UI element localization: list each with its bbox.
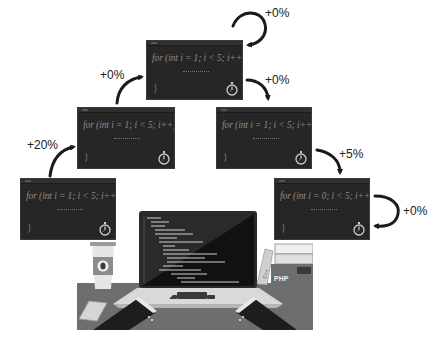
loop-body-placeholder bbox=[114, 138, 140, 139]
editor-titlebar bbox=[78, 108, 174, 113]
stopwatch-icon bbox=[295, 151, 307, 165]
code-snippet-2: for (int i = 1; i < 5; i++) { } bbox=[77, 107, 175, 169]
code-line: for (int i = 1; i < 5; i++) { bbox=[26, 191, 116, 201]
loop-body-placeholder bbox=[183, 71, 209, 72]
closing-brace: } bbox=[223, 151, 228, 162]
code-line: for (int i = 1; i < 5; i++) { bbox=[83, 120, 175, 130]
stopwatch-icon bbox=[226, 82, 238, 96]
books: PHP C++ bbox=[257, 244, 313, 285]
arrow-5-self bbox=[375, 196, 398, 226]
editor-titlebar bbox=[275, 179, 369, 184]
editor-titlebar bbox=[147, 41, 242, 46]
label-plus-0-b: +0% bbox=[265, 73, 289, 87]
laptop-screen bbox=[139, 211, 257, 288]
stopwatch-icon bbox=[158, 151, 170, 165]
label-plus-5: +5% bbox=[339, 147, 363, 161]
label-plus-0-self-top: +0% bbox=[265, 6, 289, 20]
editor-titlebar bbox=[217, 108, 311, 113]
loop-body-placeholder bbox=[311, 209, 337, 210]
code-snippet-1: for (int i = 1; i < 5; i++) { } bbox=[146, 40, 243, 100]
closing-brace: } bbox=[84, 151, 89, 162]
code-line: for (int i = 1; i < 5; i++) { bbox=[152, 53, 243, 63]
closing-brace: } bbox=[27, 222, 32, 233]
arrow-3-to-5 bbox=[317, 150, 340, 172]
coffee-cup bbox=[90, 242, 116, 289]
developer-illustration: PHP C++ bbox=[77, 209, 313, 330]
code-snippet-3: for (int i = 1; i < 5; i++) { } bbox=[216, 107, 312, 169]
svg-text:PHP: PHP bbox=[274, 275, 289, 282]
diagram-canvas: +20% +0% +0% +0% +5% +0% for (int i = 1;… bbox=[0, 0, 448, 344]
closing-brace: } bbox=[153, 82, 158, 93]
stopwatch-icon bbox=[353, 222, 365, 236]
label-plus-0-a: +0% bbox=[100, 68, 124, 82]
code-line: for (int i = 1; i < 5; i++) { bbox=[222, 120, 312, 130]
code-line: for (int i = 0; i < 5; i++) { bbox=[280, 191, 370, 201]
editor-titlebar bbox=[21, 179, 115, 184]
label-plus-0-self-bottom: +0% bbox=[403, 204, 427, 218]
label-plus-20: +20% bbox=[27, 138, 58, 152]
loop-body-placeholder bbox=[253, 138, 279, 139]
